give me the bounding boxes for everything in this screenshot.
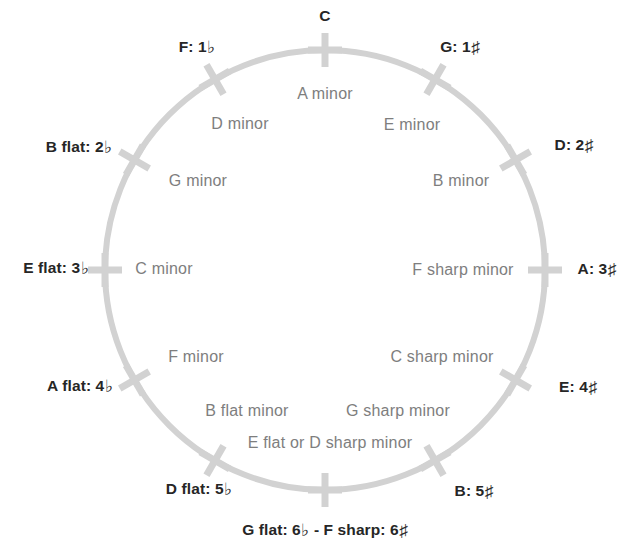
sharp-symbol: ♯ — [471, 38, 480, 57]
circle-graphic — [0, 0, 625, 549]
major-key-label-c[interactable]: C — [319, 8, 330, 24]
major-key-label-b-flat[interactable]: B flat: 2♭ — [46, 139, 112, 157]
minor-key-label-c-sharp-minor[interactable]: C sharp minor — [390, 349, 493, 366]
minor-key-label-c-minor[interactable]: C minor — [135, 261, 192, 278]
minor-key-label-a-minor[interactable]: A minor — [297, 86, 353, 103]
sharp-symbol: ♯ — [584, 136, 593, 155]
sharp-symbol: ♯ — [399, 521, 408, 540]
major-key-label-e[interactable]: E: 4♯ — [559, 379, 597, 397]
major-key-label-a-flat[interactable]: A flat: 4♭ — [47, 378, 113, 396]
major-key-label-g[interactable]: G: 1♯ — [440, 39, 480, 57]
sharp-symbol: ♯ — [588, 378, 597, 397]
minor-key-label-e-minor[interactable]: E minor — [384, 117, 441, 134]
minor-key-label-g-minor[interactable]: G minor — [169, 173, 227, 190]
sharp-symbol: ♯ — [484, 482, 493, 501]
sharp-symbol: ♯ — [607, 260, 616, 279]
flat-symbol: ♭ — [301, 521, 310, 540]
flat-symbol: ♭ — [224, 480, 233, 499]
minor-key-label-f-minor[interactable]: F minor — [168, 349, 224, 366]
major-key-label-f[interactable]: F: 1♭ — [179, 39, 216, 57]
minor-key-label-d-minor[interactable]: D minor — [211, 116, 268, 133]
flat-symbol: ♭ — [104, 377, 113, 396]
major-key-label-a[interactable]: A: 3♯ — [578, 261, 617, 279]
major-key-label-g-flat-f-sharp[interactable]: G flat: 6♭ - F sharp: 6♯ — [242, 522, 408, 540]
major-key-label-b[interactable]: B: 5♯ — [455, 483, 494, 501]
flat-symbol: ♭ — [207, 38, 216, 57]
circle-of-fifths-diagram: CA minorG: 1♯E minorD: 2♯B minorA: 3♯F s… — [0, 0, 625, 549]
major-key-label-d-flat[interactable]: D flat: 5♭ — [166, 481, 232, 499]
minor-key-label-e-flat-or-d-sharp-minor[interactable]: E flat or D sharp minor — [248, 435, 413, 452]
minor-key-label-g-sharp-minor[interactable]: G sharp minor — [346, 403, 450, 420]
minor-key-label-b-flat-minor[interactable]: B flat minor — [205, 403, 288, 420]
minor-key-label-f-sharp-minor[interactable]: F sharp minor — [412, 262, 513, 279]
major-key-label-d[interactable]: D: 2♯ — [555, 137, 594, 155]
major-key-label-e-flat[interactable]: E flat: 3♭ — [23, 260, 89, 278]
minor-key-label-b-minor[interactable]: B minor — [433, 173, 490, 190]
flat-symbol: ♭ — [80, 259, 89, 278]
flat-symbol: ♭ — [104, 138, 113, 157]
